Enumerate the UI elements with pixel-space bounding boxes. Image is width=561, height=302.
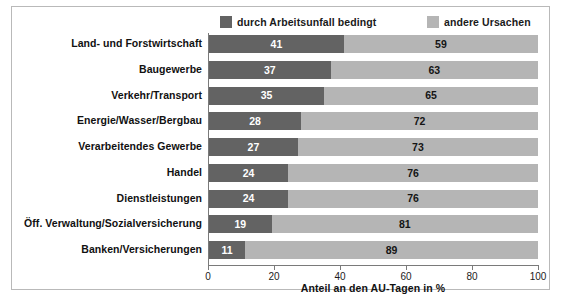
x-axis: 020406080100 [208,265,538,266]
bar-segment-other: 65 [324,87,538,105]
x-axis-tick [340,265,341,270]
bar-row: 3763 [209,61,538,79]
category-label: Öff. Verwaltung/Sozialversicherung [24,217,202,229]
bar-row: 2476 [209,164,538,182]
x-axis-tick [538,265,539,270]
bar-segment-accident: 35 [209,87,324,105]
bar-segment-accident: 19 [209,215,272,233]
bar-value-accident: 24 [243,168,255,179]
bar-value-other: 65 [425,90,437,101]
bar-segment-other: 59 [344,35,538,53]
bar-value-accident: 11 [222,245,233,256]
bar-value-accident: 37 [264,65,276,76]
category-label: Verkehr/Transport [111,89,202,101]
bar-segment-accident: 27 [209,138,298,156]
bar-segment-other: 63 [331,61,538,79]
bar-segment-other: 76 [288,164,538,182]
x-axis-tick-label: 40 [334,271,345,282]
category-label: Land- und Forstwirtschaft [71,37,202,49]
x-axis-tick-label: 0 [205,271,211,282]
bar-row: 1189 [209,241,538,259]
bar-segment-accident: 41 [209,35,344,53]
bar-value-other: 59 [435,39,447,50]
x-axis-tick-label: 100 [530,271,547,282]
bar-row: 3565 [209,87,538,105]
x-axis-tick [274,265,275,270]
bar-value-accident: 41 [271,39,283,50]
x-axis-tick-label: 80 [466,271,477,282]
bar-segment-accident: 24 [209,190,288,208]
bar-value-accident: 35 [261,90,273,101]
x-axis-tick [406,265,407,270]
plot-area: Land- und ForstwirtschaftBaugewerbeVerke… [12,33,549,265]
category-label: Baugewerbe [139,63,202,75]
bar-value-other: 63 [429,65,441,76]
x-axis-title: Anteil an den AU-Tagen in % [208,282,538,294]
legend-label-accident: durch Arbeitsunfall bedingt [237,16,376,28]
bar-row: 4159 [209,35,538,53]
chart-frame: durch Arbeitsunfall bedingt andere Ursac… [11,6,550,290]
chart-legend: durch Arbeitsunfall bedingt andere Ursac… [12,16,549,32]
bar-segment-accident: 24 [209,164,288,182]
legend-entry-accident: durch Arbeitsunfall bedingt [220,16,376,28]
bar-value-accident: 19 [234,219,246,230]
category-label: Dienstleistungen [117,192,202,204]
legend-swatch-accident-icon [220,16,232,28]
bar-value-accident: 27 [248,142,260,153]
bar-segment-accident: 11 [209,241,245,259]
bar-row: 2773 [209,138,538,156]
category-label: Banken/Versicherungen [81,243,202,255]
category-axis: Land- und ForstwirtschaftBaugewerbeVerke… [12,33,208,265]
bar-segment-accident: 28 [209,112,301,130]
bar-segment-other: 81 [272,215,538,233]
x-axis-tick-label: 60 [400,271,411,282]
category-label: Handel [167,166,202,178]
x-axis-tick [208,265,209,270]
x-axis-tick-label: 20 [268,271,279,282]
bar-value-other: 72 [414,116,426,127]
bar-segment-other: 89 [245,241,538,259]
bar-value-other: 89 [386,245,398,256]
category-label: Verarbeitendes Gewerbe [78,140,202,152]
category-label: Energie/Wasser/Bergbau [77,114,202,126]
bar-value-other: 81 [399,219,411,230]
bar-value-accident: 28 [249,116,261,127]
legend-label-other: andere Ursachen [444,16,531,28]
legend-entry-other: andere Ursachen [427,16,531,28]
bar-segment-other: 76 [288,190,538,208]
bars-area: 415937633565287227732476247619811189 [208,33,538,265]
bar-segment-other: 73 [298,138,538,156]
bar-segment-other: 72 [301,112,538,130]
bar-segment-accident: 37 [209,61,331,79]
x-axis-tick [472,265,473,270]
bar-value-other: 76 [407,193,419,204]
bar-row: 2476 [209,190,538,208]
legend-swatch-other-icon [427,16,439,28]
bar-value-other: 73 [412,142,424,153]
bar-value-accident: 24 [243,193,255,204]
bar-value-other: 76 [407,168,419,179]
bar-row: 1981 [209,215,538,233]
bar-row: 2872 [209,112,538,130]
